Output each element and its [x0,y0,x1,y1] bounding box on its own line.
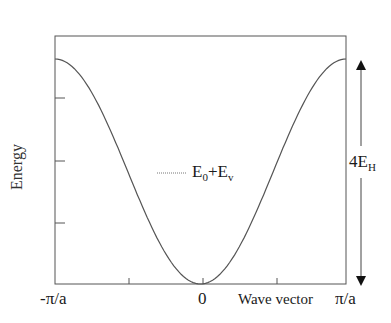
legend-text-e0: E [192,162,202,181]
y-axis-ticks [55,98,65,223]
bandwidth-sub: H [368,161,376,173]
legend-text-ev: +E [208,162,228,181]
plot-frame [55,36,346,284]
legend-sub-v: v [228,171,234,183]
y-axis-label: Energy [8,144,26,190]
x-axis-ticks [129,278,277,284]
legend-label: E0+Ev [192,163,233,180]
arrow-down-icon [356,276,366,286]
x-tick-label-left: -π/a [40,290,67,307]
bandwidth-label: 4EH [349,153,376,170]
x-tick-label-right: π/a [335,290,356,307]
x-axis-label: Wave vector [238,292,313,307]
arrow-up-icon [356,60,366,70]
bandwidth-text: 4E [349,152,368,171]
x-tick-label-zero: 0 [198,290,207,307]
bandwidth-arrow [356,60,366,286]
